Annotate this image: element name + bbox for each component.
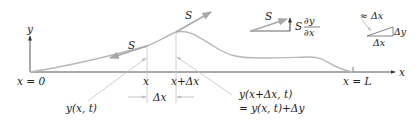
partial-denominator: ∂x [304, 27, 315, 38]
small-triangle [367, 27, 393, 36]
triangle-horizontal-label: Δx [372, 37, 386, 48]
y-left-leader [88, 58, 146, 101]
tension-right-arrow [176, 12, 211, 32]
x-axis-label: x [399, 66, 405, 78]
tension-right-label: S [185, 9, 192, 21]
triangle-hyp-leader [362, 20, 371, 31]
segment-left-label: x [143, 75, 149, 87]
small-triangle-inset: ≈ Δx Δy Δx [360, 10, 407, 48]
decomp-vertical-prefix: S [295, 20, 302, 32]
force-decomposition-inset: S S ∂y ∂x [250, 10, 320, 38]
triangle-hypotenuse-label: ≈ Δx [360, 10, 384, 21]
string-segment-diagram: S S y x x = 0 x = L x x+Δx Δx y(x, t) y(… [0, 0, 420, 125]
y-left-label: y(x, t) [65, 102, 97, 114]
partial-numerator: ∂y [304, 15, 315, 26]
triangle-vertical-label: Δy [393, 26, 407, 37]
tension-left-label: S [128, 39, 135, 51]
dx-width-label: Δx [152, 91, 167, 103]
y-axis-label: y [26, 23, 34, 35]
origin-label: x = 0 [17, 75, 45, 87]
y-right-label-line1: y(x+Δx, t) [238, 88, 292, 100]
axes [30, 36, 395, 72]
decomp-tension-label: S [265, 10, 272, 22]
end-label: x = L [343, 75, 371, 87]
y-right-label-line2: = y(x, t)+Δy [239, 102, 305, 114]
segment-right-label: x+Δx [171, 75, 199, 87]
